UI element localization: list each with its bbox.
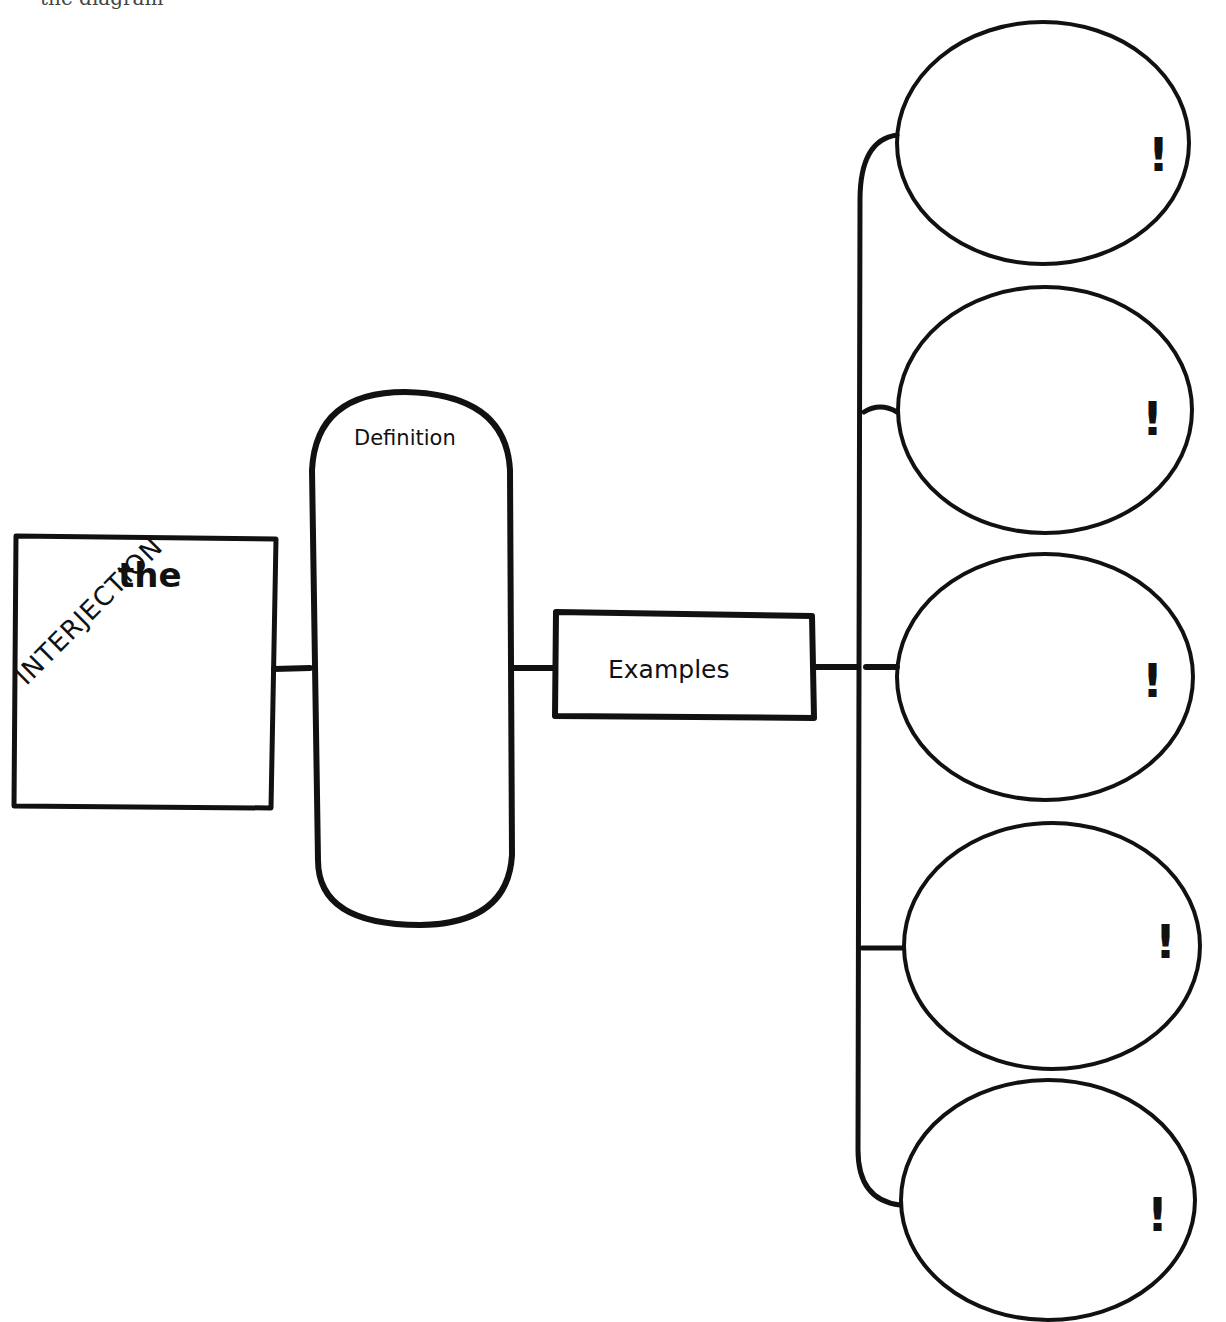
example-circle-3[interactable] <box>920 582 1120 772</box>
exclamation-mark-icon-5: ! <box>1147 1188 1168 1242</box>
branch-circle-2 <box>864 407 897 412</box>
exclamation-mark-icon-1: ! <box>1148 128 1169 182</box>
connector-main-definition <box>274 668 310 669</box>
definition-answer-area[interactable] <box>330 470 490 890</box>
example-circle-5[interactable] <box>922 1105 1122 1295</box>
definition-label: Definition <box>354 426 456 450</box>
exclamation-mark-icon-4: ! <box>1155 915 1176 969</box>
example-circle-4[interactable] <box>925 851 1125 1041</box>
exclamation-mark-icon-2: ! <box>1142 392 1163 446</box>
example-circle-1[interactable] <box>920 50 1120 240</box>
example-circle-2[interactable] <box>920 315 1120 505</box>
exclamation-mark-icon-3: ! <box>1142 654 1163 708</box>
examples-label: Examples <box>608 655 729 684</box>
